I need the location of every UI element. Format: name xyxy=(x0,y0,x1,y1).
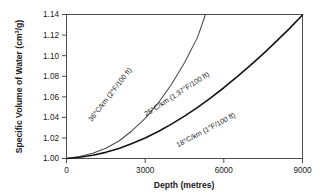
x-axis-title: Depth (metres) xyxy=(154,180,215,190)
x-tick-label: 9000 xyxy=(293,166,312,175)
x-tick-label: 3000 xyxy=(136,166,155,175)
x-tick-label: 0 xyxy=(64,166,69,175)
y-tick-label: 1.08 xyxy=(43,72,59,81)
y-axis-title-main: Specific Volume of Water (cm xyxy=(14,33,24,153)
y-tick-label: 1.10 xyxy=(43,52,59,61)
y-tick-label: 1.14 xyxy=(43,10,59,19)
y-tick-label: 1.12 xyxy=(43,31,59,40)
chart-figure: 1.00 1.02 1.04 1.06 1.08 1.10 1.12 1.14 … xyxy=(0,0,327,195)
x-tick-label: 6000 xyxy=(215,166,234,175)
y-axis-title: Specific Volume of Water (cm3/g) xyxy=(14,20,24,154)
y-tick-label: 1.00 xyxy=(43,154,59,163)
y-tick-label: 1.06 xyxy=(43,93,59,102)
y-tick-label: 1.04 xyxy=(43,113,59,122)
specific-volume-vs-depth-chart: 1.00 1.02 1.04 1.06 1.08 1.10 1.12 1.14 … xyxy=(0,0,327,195)
y-axis-title-tail: /g) xyxy=(14,20,24,31)
y-tick-label: 1.02 xyxy=(43,134,59,143)
